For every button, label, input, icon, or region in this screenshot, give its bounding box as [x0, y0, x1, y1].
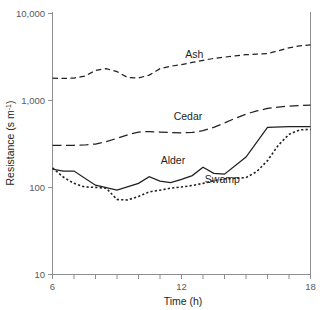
chart-series-group — [53, 45, 311, 200]
y-tick-label-1000: 1,000 — [21, 95, 45, 106]
x-axis-ticks — [53, 275, 311, 280]
y-axis-ticks — [48, 14, 53, 275]
y-tick-label-10000: 10,000 — [16, 8, 45, 19]
series-label-ash: Ash — [185, 48, 203, 60]
x-axis-title: Time (h) — [164, 295, 203, 307]
x-tick-label-12: 12 — [176, 281, 187, 292]
series-line-ash — [53, 45, 311, 78]
series-labels-group: Ash Cedar Alder Swamp — [161, 48, 240, 184]
series-label-cedar: Cedar — [174, 110, 203, 122]
svg-text:Resistance (s m-1): Resistance (s m-1) — [4, 100, 16, 185]
chart-axes — [53, 12, 312, 275]
y-tick-label-100: 100 — [29, 182, 45, 193]
resistance-time-chart: 10,000 1,000 100 10 6 12 18 — [0, 0, 326, 310]
y-axis-tick-labels: 10,000 1,000 100 10 — [16, 8, 45, 280]
chart-figure: 10,000 1,000 100 10 6 12 18 — [0, 0, 326, 310]
x-axis-tick-labels: 6 12 18 — [50, 281, 316, 292]
y-axis-title-tail: ) — [4, 100, 16, 104]
y-axis-title: Resistance (s m-1) — [4, 100, 16, 185]
x-tick-label-6: 6 — [50, 281, 55, 292]
x-tick-label-18: 18 — [305, 281, 316, 292]
series-label-alder: Alder — [161, 154, 186, 166]
y-tick-label-10: 10 — [34, 269, 45, 280]
y-axis-title-main: Resistance (s m — [4, 110, 16, 186]
series-label-swamp: Swamp — [205, 173, 240, 185]
